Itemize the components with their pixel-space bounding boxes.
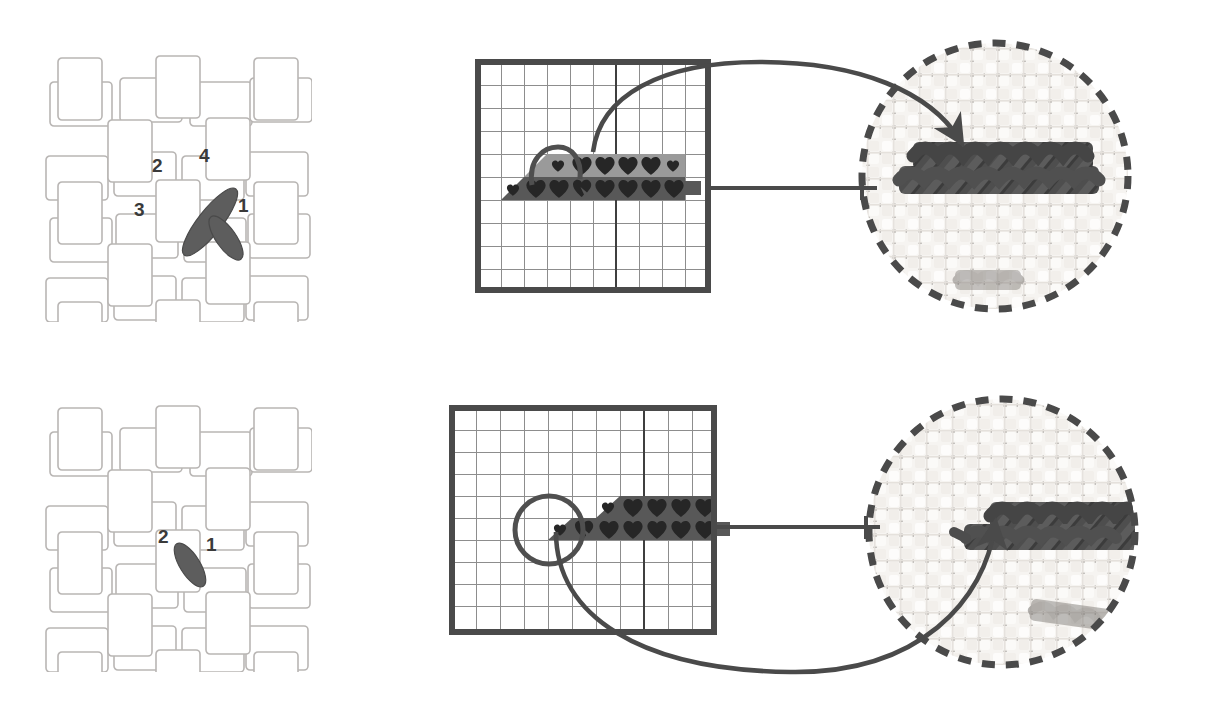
chart-thread-tail <box>685 181 701 195</box>
full-cross-stitch-chart <box>470 55 720 300</box>
weave-label-4: 4 <box>199 146 210 165</box>
weave-label-2: 2 <box>158 527 169 546</box>
weave-label-1: 1 <box>238 196 249 215</box>
half-cross-stitch-photo <box>862 392 1142 672</box>
half-cross-stitch-chart <box>444 400 724 645</box>
full-cross-stitch-photo <box>855 36 1135 316</box>
photo-stitch-row-lower <box>899 166 1099 194</box>
weave-label-2: 2 <box>152 156 163 175</box>
photo-aida-cloth <box>862 392 1142 672</box>
weave-label-3: 3 <box>134 200 145 219</box>
photo-stitch-row-upper <box>913 142 1093 170</box>
photo-stitch-row-lower <box>954 524 1142 550</box>
half-cross-stitch-weave: 1 2 <box>42 402 312 672</box>
photo-aida-cloth <box>855 36 1135 316</box>
photo-stitch-row-faint <box>955 270 1021 290</box>
full-cross-stitch-weave: 1 2 3 4 <box>42 52 312 322</box>
weave-label-1: 1 <box>206 535 217 554</box>
